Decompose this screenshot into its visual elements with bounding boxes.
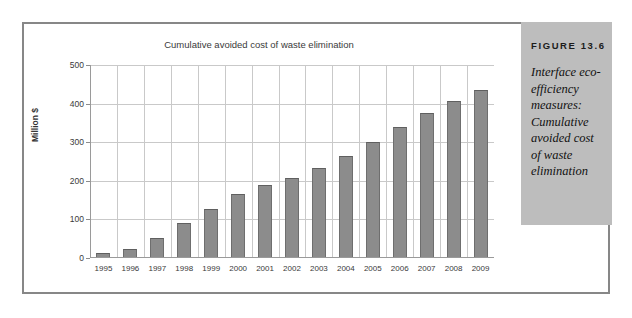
x-tick-label: 2002 — [283, 264, 301, 273]
bar — [393, 127, 407, 257]
gridline-vertical — [198, 65, 199, 258]
y-tick-mark — [86, 219, 90, 220]
gridline-vertical — [279, 65, 280, 258]
y-tick-mark — [86, 142, 90, 143]
gridline-horizontal — [90, 65, 494, 66]
plot-region: 0100200300400500 19951996199719981999200… — [90, 65, 494, 258]
bar — [150, 238, 164, 257]
y-axis-line — [90, 65, 91, 258]
x-tick-label: 1997 — [148, 264, 166, 273]
x-tick-label: 1998 — [175, 264, 193, 273]
figure-caption-panel: FIGURE 13.6 Interface eco-efficiency mea… — [521, 22, 612, 225]
x-tick-label: 2006 — [391, 264, 409, 273]
bar — [312, 168, 326, 257]
y-tick-label: 0 — [79, 253, 84, 263]
x-tick-label: 2008 — [445, 264, 463, 273]
gridline-vertical — [413, 65, 414, 258]
y-tick-mark — [86, 65, 90, 66]
gridline-vertical — [225, 65, 226, 258]
bar — [474, 90, 488, 257]
y-tick-label: 100 — [70, 214, 84, 224]
x-tick-label: 1995 — [95, 264, 113, 273]
x-tick-label: 2009 — [472, 264, 490, 273]
y-tick-label: 500 — [70, 60, 84, 70]
bar — [231, 194, 245, 257]
x-tick-label: 2001 — [256, 264, 274, 273]
gridline-vertical — [467, 65, 468, 258]
x-tick-label: 2000 — [229, 264, 247, 273]
gridline-vertical — [359, 65, 360, 258]
x-axis-line — [90, 257, 494, 258]
figure-container: Cumulative avoided cost of waste elimina… — [0, 0, 632, 318]
x-tick-label: 2003 — [310, 264, 328, 273]
y-tick-label: 400 — [70, 99, 84, 109]
gridline-vertical — [305, 65, 306, 258]
bar — [204, 209, 218, 257]
y-tick-label: 300 — [70, 137, 84, 147]
y-axis-label: Million $ — [30, 108, 40, 142]
gridline-vertical — [440, 65, 441, 258]
y-tick-label: 200 — [70, 176, 84, 186]
chart-title: Cumulative avoided cost of waste elimina… — [24, 39, 494, 50]
bar — [285, 178, 299, 257]
bar — [339, 156, 353, 257]
gridline-horizontal — [90, 104, 494, 105]
bar — [258, 185, 272, 257]
gridline-vertical — [332, 65, 333, 258]
gridline-vertical — [171, 65, 172, 258]
y-tick-mark — [86, 181, 90, 182]
x-tick-label: 1996 — [121, 264, 139, 273]
bar — [96, 253, 110, 257]
gridline-vertical — [252, 65, 253, 258]
gridline-vertical — [117, 65, 118, 258]
x-tick-label: 2007 — [418, 264, 436, 273]
x-tick-label: 2005 — [364, 264, 382, 273]
bar — [123, 249, 137, 257]
x-tick-label: 1999 — [202, 264, 220, 273]
x-tick-label: 2004 — [337, 264, 355, 273]
bar — [420, 113, 434, 257]
bar — [447, 101, 461, 257]
y-tick-mark — [86, 258, 90, 259]
bar — [177, 223, 191, 257]
chart-area: Cumulative avoided cost of waste elimina… — [24, 24, 519, 292]
bar — [366, 142, 380, 257]
gridline-vertical — [386, 65, 387, 258]
y-tick-mark — [86, 104, 90, 105]
gridline-vertical — [144, 65, 145, 258]
figure-number-label: FIGURE 13.6 — [531, 40, 604, 51]
figure-caption-text: Interface eco-efficiency measures: Cumul… — [531, 64, 604, 180]
